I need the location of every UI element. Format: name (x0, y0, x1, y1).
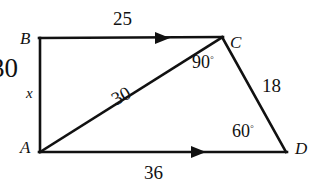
segment-BC (39, 37, 223, 38)
arrow-on-AD-icon (191, 146, 206, 158)
angle-label-at-D: 60◦ (232, 121, 254, 140)
geometry-figure: B C D A 25 18 36 30 30 x 90◦ 60◦ (0, 0, 323, 194)
vertex-label-A: A (20, 139, 30, 156)
length-label-AB-clipped: 30 (0, 55, 18, 82)
degree-symbol-at-D: ◦ (250, 120, 254, 132)
length-label-CD: 18 (262, 76, 281, 95)
angle-label-at-C: 90◦ (192, 52, 214, 71)
vertex-label-B: B (20, 30, 30, 47)
angle-value-at-D: 60 (232, 121, 250, 141)
degree-symbol-at-C: ◦ (210, 51, 214, 63)
angle-value-at-C: 90 (192, 52, 210, 72)
length-label-BC: 25 (113, 9, 132, 28)
arrow-on-BC-icon (155, 32, 170, 44)
length-label-AD: 36 (144, 163, 163, 182)
vertex-label-D: D (295, 140, 307, 157)
vertex-label-C: C (230, 34, 241, 51)
variable-label-x: x (26, 86, 33, 101)
